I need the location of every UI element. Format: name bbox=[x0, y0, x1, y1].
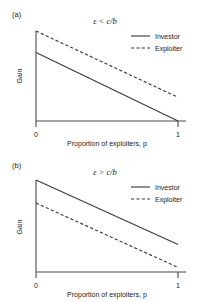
figure-container: (a) ε < c/b 0 1 Proportion of exploiters… bbox=[0, 0, 210, 302]
panel-b-xticklabel-0: 0 bbox=[34, 282, 38, 289]
panel-a-xlabel: Proportion of exploiters, p bbox=[67, 140, 147, 148]
panel-b-legend-label-investor: Investor bbox=[155, 184, 181, 191]
panel-b-plot: 0 1 Proportion of exploiters, p Gain Inv… bbox=[0, 151, 210, 302]
panel-a-legend-label-exploiter: Exploiter bbox=[155, 45, 183, 53]
panel-a-plot: 0 1 Proportion of exploiters, p Gain Inv… bbox=[0, 0, 210, 151]
panel-a-ylabel: Gain bbox=[16, 69, 23, 84]
panel-b: (b) ε > c/b 0 1 Proportion of exploiters… bbox=[0, 151, 210, 302]
panel-a-xticklabel-1: 1 bbox=[176, 131, 180, 138]
panel-b-xlabel: Proportion of exploiters, p bbox=[67, 291, 147, 299]
panel-b-ylabel: Gain bbox=[16, 220, 23, 235]
panel-a: (a) ε < c/b 0 1 Proportion of exploiters… bbox=[0, 0, 210, 151]
panel-b-xticklabel-1: 1 bbox=[176, 282, 180, 289]
panel-b-legend-label-exploiter: Exploiter bbox=[155, 196, 183, 204]
panel-a-xticklabel-0: 0 bbox=[34, 131, 38, 138]
panel-a-legend-label-investor: Investor bbox=[155, 33, 181, 40]
panel-a-series-investor bbox=[36, 53, 178, 121]
